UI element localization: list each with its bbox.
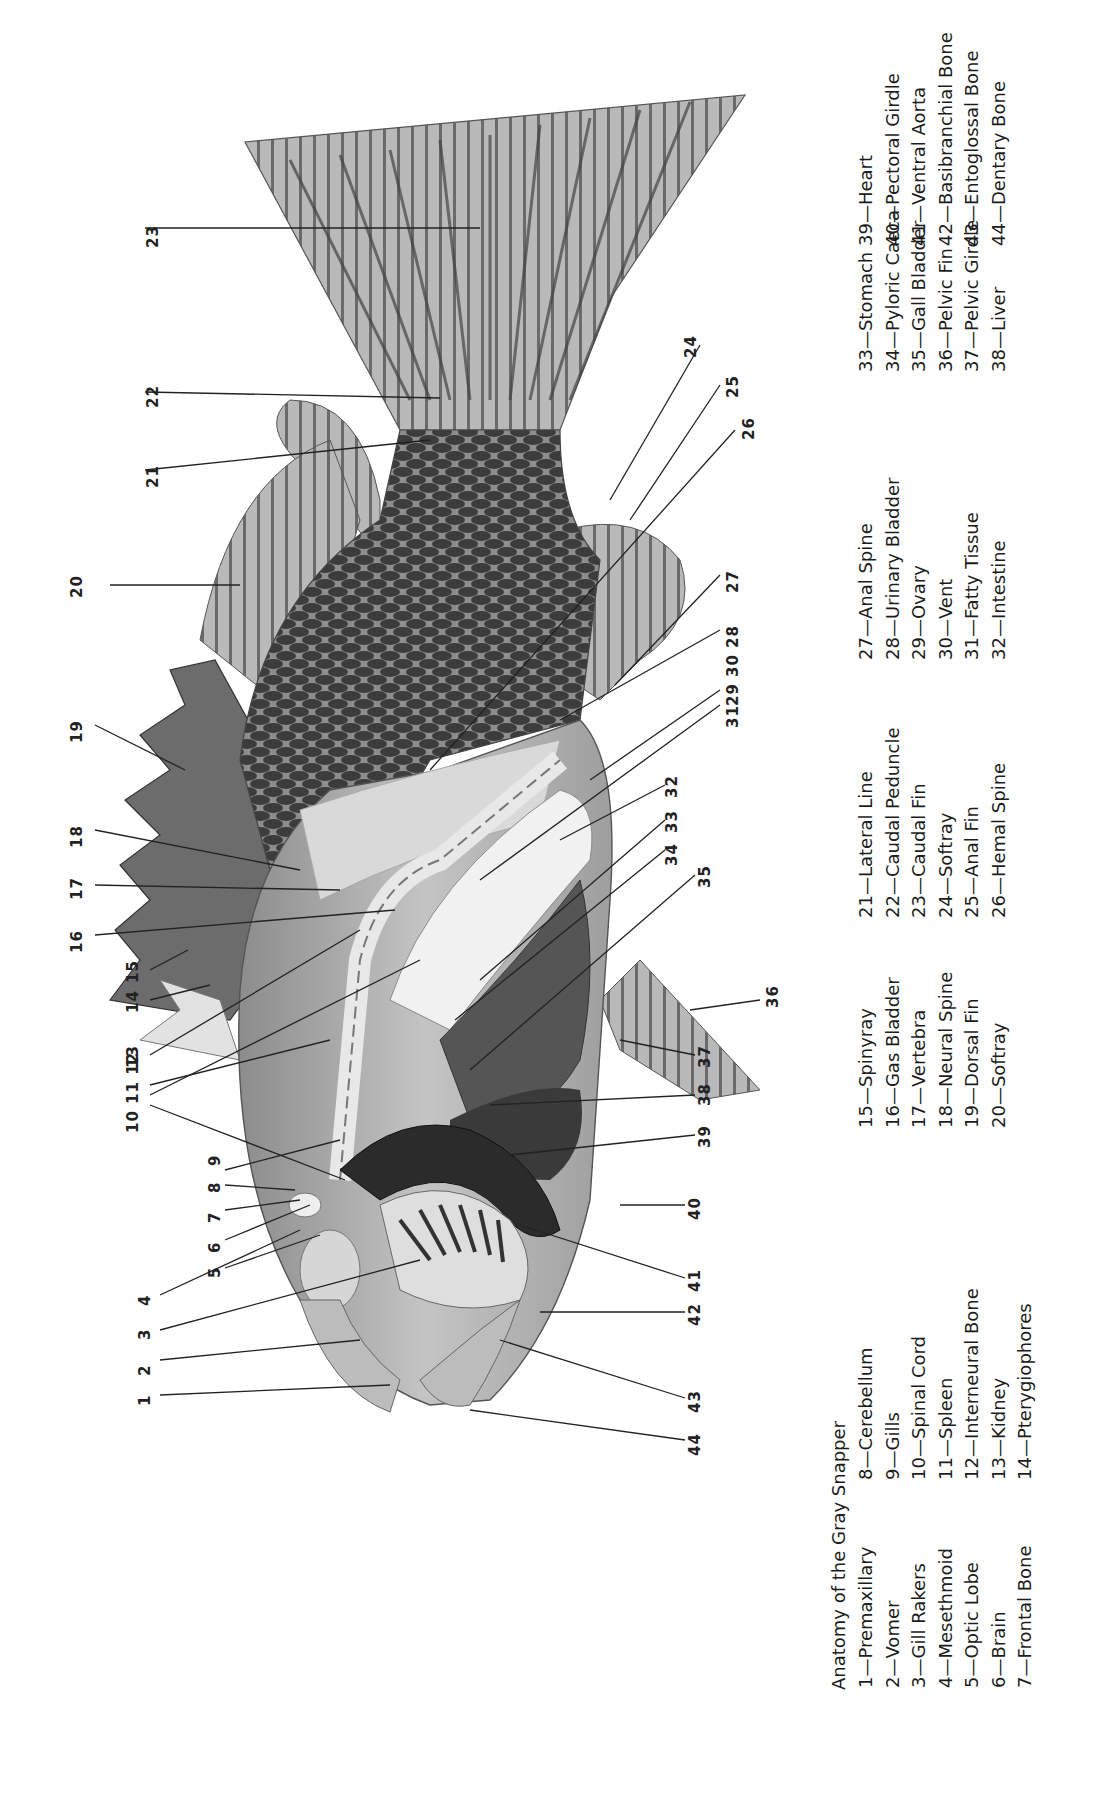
legend-label: Anal Fin: [961, 806, 982, 877]
legend-dash: —: [935, 1659, 956, 1677]
legend-item: 41—Ventral Aorta: [910, 87, 928, 246]
legend-number: 33: [855, 349, 876, 372]
legend-number: 13: [988, 1457, 1009, 1480]
legend-label: Vomer: [882, 1601, 903, 1659]
legend-number: 12: [961, 1457, 982, 1480]
legend-dash: —: [882, 1451, 903, 1469]
legend-label: Anal Spine: [855, 523, 876, 619]
callout-number: 43: [686, 1390, 704, 1413]
legend-item: 22—Caudal Peduncle: [884, 727, 902, 918]
legend-number: 14: [1014, 1457, 1035, 1480]
legend-item: 11—Spleen: [937, 1378, 955, 1480]
legend-dash: —: [908, 331, 929, 349]
legend-number: 39: [855, 223, 876, 246]
legend-dash: —: [988, 331, 1009, 349]
legend-label: Pelvic Fin: [935, 248, 956, 331]
legend-label: Caudal Peduncle: [882, 727, 903, 877]
legend-dash: —: [988, 1659, 1009, 1677]
legend-label: Cerebellum: [855, 1347, 876, 1450]
legend-label: Kidney: [988, 1378, 1009, 1439]
legend-item: 21—Lateral Line: [857, 771, 875, 918]
callout-number: 7: [206, 1212, 224, 1223]
legend-dash: —: [855, 1659, 876, 1677]
legend-number: 21: [855, 895, 876, 918]
legend-dash: —: [855, 1087, 876, 1105]
legend-title: Anatomy of the Gray Snapper: [830, 1421, 848, 1690]
legend-item: 5—Optic Lobe: [963, 1562, 981, 1688]
legend-item: 36—Pelvic Fin: [937, 248, 955, 372]
callout-number: 21: [144, 465, 162, 488]
callout-number: 14: [124, 990, 142, 1013]
callout-number: 16: [68, 930, 86, 953]
legend-number: 18: [935, 1105, 956, 1128]
legend-label: Neural Spine: [935, 972, 956, 1087]
legend-label: Dentary Bone: [988, 81, 1009, 205]
legend-label: Softray: [935, 812, 956, 877]
legend-item: 12—Interneural Bone: [963, 1288, 981, 1480]
legend-item: 3—Gill Rakers: [910, 1563, 928, 1688]
legend-number: 19: [961, 1105, 982, 1128]
callout-number: 4: [136, 1295, 154, 1306]
legend-label: Gills: [882, 1412, 903, 1450]
legend-label: Mesethmoid: [935, 1548, 956, 1659]
legend-dash: —: [1014, 1439, 1035, 1457]
legend-label: Caudal Fin: [908, 783, 929, 877]
legend-label: Spleen: [935, 1378, 956, 1439]
legend-number: 1: [855, 1677, 876, 1688]
legend-dash: —: [988, 1087, 1009, 1105]
callout-number: 17: [68, 877, 86, 900]
legend-item: 8—Cerebellum: [857, 1347, 875, 1480]
legend-item: 19—Dorsal Fin: [963, 998, 981, 1128]
legend-number: 9: [882, 1469, 903, 1480]
legend-number: 11: [935, 1457, 956, 1480]
legend-dash: —: [988, 877, 1009, 895]
legend-item: 44—Dentary Bone: [990, 81, 1008, 246]
legend-dash: —: [1014, 1659, 1035, 1677]
legend-number: 26: [988, 895, 1009, 918]
legend-number: 41: [908, 223, 929, 246]
legend-item: 27—Anal Spine: [857, 523, 875, 660]
legend-dash: —: [961, 877, 982, 895]
legend-dash: —: [882, 331, 903, 349]
legend-number: 28: [882, 637, 903, 660]
callout-number: 13: [124, 1045, 142, 1068]
legend-label: Premaxillary: [855, 1547, 876, 1659]
legend-number: 32: [988, 637, 1009, 660]
callout-number: 41: [686, 1269, 704, 1292]
callout-number: 6: [206, 1242, 224, 1253]
legend-dash: —: [988, 205, 1009, 223]
legend-label: Pterygiophores: [1014, 1303, 1035, 1439]
legend-number: 6: [988, 1677, 1009, 1688]
legend-label: Fatty Tissue: [961, 512, 982, 619]
legend-number: 35: [908, 349, 929, 372]
legend-number: 36: [935, 349, 956, 372]
legend-label: Vent: [935, 579, 956, 619]
legend-dash: —: [935, 619, 956, 637]
legend-label: Optic Lobe: [961, 1562, 982, 1659]
callout-number: 40: [686, 1197, 704, 1220]
legend-number: 25: [961, 895, 982, 918]
legend-number: 40: [882, 223, 903, 246]
legend-item: 24—Softray: [937, 812, 955, 918]
legend-number: 42: [935, 223, 956, 246]
callout-number: 3: [136, 1329, 154, 1340]
legend-dash: —: [908, 877, 929, 895]
legend-dash: —: [961, 331, 982, 349]
legend-item: 20—Softray: [990, 1022, 1008, 1128]
callout-number: 15: [124, 960, 142, 983]
legend-dash: —: [908, 205, 929, 223]
legend-item: 32—Intestine: [990, 540, 1008, 660]
legend-dash: —: [908, 1659, 929, 1677]
legend-number: 16: [882, 1105, 903, 1128]
legend-dash: —: [961, 619, 982, 637]
anatomy-plate: 12345678910 11 1213141516171819202122232…: [0, 0, 1101, 1816]
callout-number: 2: [136, 1365, 154, 1376]
legend-label: Brain: [988, 1611, 1009, 1658]
legend-number: 23: [908, 895, 929, 918]
callout-number: 1: [136, 1395, 154, 1406]
legend-item: 2—Vomer: [884, 1601, 902, 1688]
legend-label: Dorsal Fin: [961, 998, 982, 1087]
legend-item: 40—Pectoral Girdle: [884, 73, 902, 246]
callout-number: 26: [740, 417, 758, 440]
callout-number: 42: [686, 1303, 704, 1326]
